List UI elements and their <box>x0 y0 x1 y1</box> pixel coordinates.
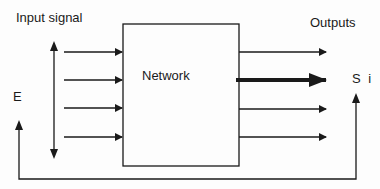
input-arrows <box>64 52 122 137</box>
network-diagram: Input signal Outputs Network E S i <box>0 0 380 189</box>
input-signal-label: Input signal <box>16 10 83 25</box>
network-label: Network <box>142 68 190 83</box>
output-arrows <box>236 52 326 137</box>
input-range-arrow <box>50 41 58 159</box>
output-symbol-label: S i <box>352 71 373 86</box>
outputs-label: Outputs <box>310 15 356 30</box>
network-block <box>123 24 239 166</box>
error-label: E <box>13 89 22 104</box>
